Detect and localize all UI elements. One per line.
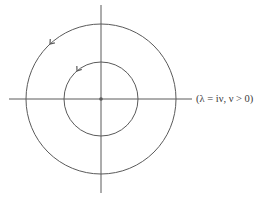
origin-dot: [99, 97, 103, 101]
contour-label: (λ = iν, ν > 0): [196, 92, 253, 106]
